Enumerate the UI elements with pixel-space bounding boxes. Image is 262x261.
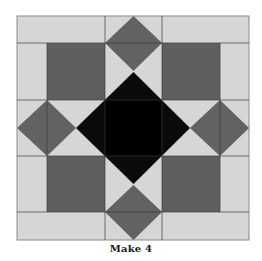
dark-square-top-left	[47, 43, 105, 100]
dark-square-top-right	[162, 43, 220, 100]
caption: Make 4	[0, 243, 262, 254]
quilt-block-diagram	[0, 0, 262, 261]
center-square	[105, 100, 162, 156]
dark-square-bottom-left	[47, 156, 105, 212]
dark-square-bottom-right	[162, 156, 220, 212]
